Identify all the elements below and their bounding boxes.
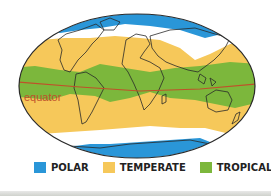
legend-label-temperate: TEMPERATE bbox=[120, 162, 186, 173]
page-edge bbox=[0, 191, 271, 196]
polar-swatch-icon bbox=[34, 162, 46, 173]
legend-label-tropical: TROPICAL bbox=[217, 162, 271, 173]
temperate-swatch-icon bbox=[103, 162, 115, 173]
legend-label-polar: POLAR bbox=[51, 162, 89, 173]
tropical-swatch-icon bbox=[200, 162, 212, 173]
legend-item-tropical: TROPICAL bbox=[200, 162, 271, 173]
equator-label: equator bbox=[24, 91, 62, 103]
legend: POLAR TEMPERATE TROPICAL bbox=[34, 160, 254, 174]
legend-item-polar: POLAR bbox=[34, 162, 89, 173]
legend-item-temperate: TEMPERATE bbox=[103, 162, 186, 173]
